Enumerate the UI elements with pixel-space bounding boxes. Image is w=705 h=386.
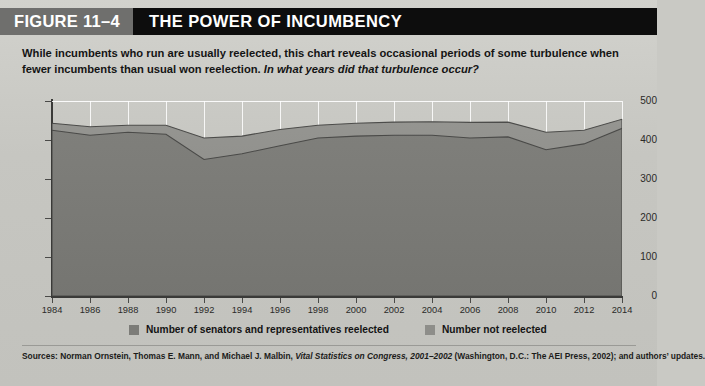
x-axis-tick-label: 1996	[270, 305, 291, 315]
legend-label-not-reelected: Number not reelected	[442, 324, 547, 335]
x-axis-tick-label: 1992	[194, 305, 215, 315]
x-axis-tick-mark	[546, 298, 547, 303]
legend-item-not-reelected: Number not reelected	[425, 324, 547, 335]
legend-swatch-not-reelected	[425, 325, 435, 335]
x-axis-tick-mark	[204, 298, 205, 303]
x-axis-tick-label: 2008	[498, 305, 519, 315]
x-axis-tick-label: 2012	[574, 305, 595, 315]
legend-item-reelected: Number of senators and representatives r…	[129, 324, 389, 335]
chart-legend: Number of senators and representatives r…	[0, 324, 657, 340]
y-axis-tick-mark	[45, 101, 51, 102]
x-axis-tick-mark	[280, 298, 281, 303]
x-axis-tick-label: 1984	[42, 305, 63, 315]
x-axis-tick-label: 1986	[80, 305, 101, 315]
x-axis-tick-mark	[394, 298, 395, 303]
x-axis-line	[51, 296, 623, 298]
x-axis-tick-mark	[356, 298, 357, 303]
footer-divider	[22, 345, 636, 346]
x-axis-tick-mark	[470, 298, 471, 303]
sources-suffix: (Washington, D.C.: The AEI Press, 2002);…	[452, 351, 705, 361]
x-axis-tick-mark	[90, 298, 91, 303]
figure-header-bar: FIGURE 11–4 THE POWER OF INCUMBENCY	[0, 8, 657, 35]
sources-note: Sources: Norman Ornstein, Thomas E. Mann…	[22, 351, 642, 362]
legend-swatch-reelected	[129, 325, 139, 335]
x-axis-tick-label: 2000	[346, 305, 367, 315]
x-axis-tick-label: 1988	[118, 305, 139, 315]
x-axis-tick-mark	[432, 298, 433, 303]
y-axis-tick-mark	[45, 257, 51, 258]
x-axis-tick-label: 2014	[612, 305, 633, 315]
x-axis-tick-label: 2002	[384, 305, 405, 315]
x-axis-tick-label: 1994	[232, 305, 253, 315]
sources-italic-title: Vital Statistics on Congress, 2001–2002	[295, 351, 452, 361]
figure-caption: While incumbents who run are usually ree…	[22, 46, 636, 77]
x-axis-tick-label: 2004	[422, 305, 443, 315]
sources-prefix: Sources: Norman Ornstein, Thomas E. Mann…	[22, 351, 295, 361]
figure-title: THE POWER OF INCUMBENCY	[133, 12, 402, 31]
y-axis-tick-mark	[45, 296, 51, 297]
x-axis-tick-label: 1990	[156, 305, 177, 315]
gridline-vertical	[622, 101, 623, 119]
stacked-area-plot	[52, 101, 622, 296]
x-axis-tick-mark	[52, 298, 53, 303]
x-axis-tick-mark	[584, 298, 585, 303]
legend-label-reelected: Number of senators and representatives r…	[146, 324, 389, 335]
x-axis-tick-mark	[318, 298, 319, 303]
plot-area	[52, 101, 622, 296]
x-axis-tick-mark	[508, 298, 509, 303]
chart-container: 0100200300400500 19841986198819901992199…	[0, 92, 657, 322]
y-axis-tick-mark	[45, 218, 51, 219]
x-axis-tick-label: 2010	[536, 305, 557, 315]
x-axis-tick-mark	[242, 298, 243, 303]
x-axis-tick-mark	[622, 298, 623, 303]
x-axis-tick-label: 2006	[460, 305, 481, 315]
y-axis-tick-mark	[45, 140, 51, 141]
y-axis-tick-mark	[45, 179, 51, 180]
x-axis-tick-label: 1998	[308, 305, 329, 315]
x-axis-tick-mark	[166, 298, 167, 303]
x-axis-tick-mark	[128, 298, 129, 303]
caption-question-text: In what years did that turbulence occur?	[264, 63, 479, 75]
figure-number-tag: FIGURE 11–4	[0, 8, 133, 35]
area-reelected	[52, 128, 622, 296]
